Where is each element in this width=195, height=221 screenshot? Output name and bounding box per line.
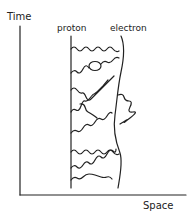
time-axis-label: Time — [7, 12, 31, 22]
photon-line — [71, 149, 116, 168]
photon-line — [71, 174, 112, 180]
photon-line — [80, 104, 97, 118]
electron-self-energy-photon — [118, 94, 135, 124]
photon-line — [71, 66, 89, 73]
photon-line — [71, 80, 108, 112]
spacetime-diagram: Time Space proton electron — [0, 0, 195, 221]
diagram-graphics — [0, 0, 195, 221]
proton-label: proton — [57, 24, 86, 33]
electron-worldline — [114, 36, 123, 188]
electron-label: electron — [110, 24, 147, 33]
space-axis-label: Space — [143, 201, 173, 211]
vacuum-polarization-loop — [89, 62, 101, 71]
photon-line — [101, 57, 119, 64]
photon-line — [71, 112, 112, 133]
photon-line — [71, 47, 119, 52]
